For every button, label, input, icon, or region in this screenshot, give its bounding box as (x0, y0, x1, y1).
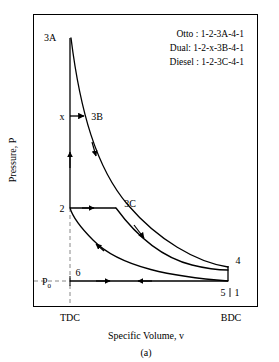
point-label-1: 1 (235, 287, 240, 298)
legend-line-diesel: Diesel : 1-2-3C-4-1 (170, 57, 245, 67)
point-label-6: 6 (76, 267, 81, 278)
curve-expansion-3C-4 (116, 208, 228, 270)
pressure-ref-label: P0 (42, 276, 52, 290)
legend-line-dual: Dual: 1-2-x-3B-4-1 (170, 43, 244, 53)
pv-diagram-svg: Otto : 1-2-3A-4-1 Dual: 1-2-x-3B-4-1 Die… (0, 0, 279, 362)
curve-compression-1-2 (70, 208, 228, 281)
point-label-x: x (60, 111, 65, 122)
x-tick-tdc: TDC (60, 312, 80, 323)
point-label-3C: 3C (124, 198, 136, 209)
legend-line-otto: Otto : 1-2-3A-4-1 (176, 29, 244, 39)
point-label-3A: 3A (44, 32, 57, 43)
point-label-5: 5 (221, 287, 226, 298)
x-axis-title: Specific Volume, v (108, 330, 184, 341)
y-axis-title: Pressure, P (7, 137, 18, 182)
point-label-2: 2 (60, 203, 65, 214)
point-label-4: 4 (236, 255, 241, 266)
x-tick-bdc: BDC (221, 312, 242, 323)
figure-caption: (a) (140, 347, 151, 359)
arrow-compression (96, 244, 104, 251)
point-label-3B: 3B (91, 111, 103, 122)
pv-diagram-figure: Otto : 1-2-3A-4-1 Dual: 1-2-x-3B-4-1 Die… (0, 0, 279, 362)
pressure-ref-subscript: 0 (48, 282, 52, 290)
